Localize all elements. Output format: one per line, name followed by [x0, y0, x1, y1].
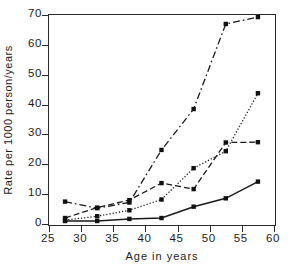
y-tick-label-10: 10	[28, 186, 42, 198]
data-point-marker	[95, 205, 99, 209]
data-point-marker	[127, 208, 131, 212]
data-point-marker	[95, 214, 99, 218]
y-tick-label-40: 40	[28, 97, 42, 109]
data-point-marker	[224, 149, 228, 153]
y-axis-title: Rate per 1000 person/years	[2, 14, 14, 226]
x-tick-label-40: 40	[132, 232, 156, 244]
x-tick-label-50: 50	[197, 232, 221, 244]
data-point-marker	[127, 198, 131, 202]
series-line	[65, 17, 258, 208]
data-point-marker	[159, 181, 163, 185]
data-point-marker	[224, 140, 228, 144]
y-tick-label-20: 20	[28, 156, 42, 168]
y-tick-60	[42, 45, 49, 46]
y-tick-label-50: 50	[28, 67, 42, 79]
chart-lines	[49, 15, 274, 224]
y-tick-40	[42, 105, 49, 106]
data-point-marker	[191, 107, 195, 111]
x-tick-label-30: 30	[68, 232, 92, 244]
plot-area	[48, 14, 276, 226]
series-line	[65, 142, 258, 218]
x-axis-title: Age in years	[48, 250, 276, 262]
y-tick-label-0: 0	[35, 216, 42, 228]
data-point-marker	[256, 140, 260, 144]
data-point-marker	[95, 219, 99, 223]
y-tick-0	[42, 224, 49, 225]
data-point-marker	[191, 187, 195, 191]
data-point-marker	[159, 148, 163, 152]
data-point-marker	[127, 217, 131, 221]
x-tick-label-25: 25	[36, 232, 60, 244]
x-tick-label-35: 35	[100, 232, 124, 244]
y-axis-tick-labels: 010203040506070	[18, 14, 42, 226]
data-point-marker	[224, 22, 228, 26]
figure: Rate per 1000 person/years 0102030405060…	[0, 0, 294, 274]
data-point-marker	[191, 204, 195, 208]
data-point-marker	[159, 216, 163, 220]
y-tick-label-70: 70	[28, 7, 42, 19]
x-tick-label-55: 55	[229, 232, 253, 244]
data-point-marker	[256, 91, 260, 95]
data-point-marker	[256, 15, 260, 19]
y-tick-50	[42, 75, 49, 76]
x-axis-tick-labels: 2530354045505560	[48, 230, 276, 246]
data-point-marker	[191, 166, 195, 170]
y-tick-label-60: 60	[28, 37, 42, 49]
data-point-marker	[224, 196, 228, 200]
y-tick-70	[42, 15, 49, 16]
data-point-marker	[63, 199, 67, 203]
y-tick-10	[42, 194, 49, 195]
data-point-marker	[159, 197, 163, 201]
x-tick-label-60: 60	[261, 232, 285, 244]
data-point-marker	[63, 219, 67, 223]
data-point-marker	[256, 179, 260, 183]
y-tick-20	[42, 164, 49, 165]
y-axis-title-wrapper: Rate per 1000 person/years	[4, 14, 18, 226]
series-series-3-dotted	[63, 91, 260, 222]
y-tick-30	[42, 134, 49, 135]
x-tick-label-45: 45	[165, 232, 189, 244]
y-tick-label-30: 30	[28, 126, 42, 138]
